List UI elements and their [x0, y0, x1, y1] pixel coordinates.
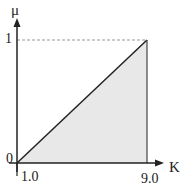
y-tick-label-1: 1 [5, 32, 12, 46]
x-axis-label: K [169, 160, 180, 174]
x-tick-label-1: 1.0 [21, 170, 39, 184]
membership-chart [0, 0, 186, 189]
y-axis-arrow-icon [14, 18, 21, 27]
x-tick-label-9: 9.0 [141, 172, 159, 186]
x-axis-arrow-icon [155, 160, 164, 167]
y-axis-label: μ [11, 3, 19, 17]
y-tick-label-0: 0 [6, 152, 13, 166]
